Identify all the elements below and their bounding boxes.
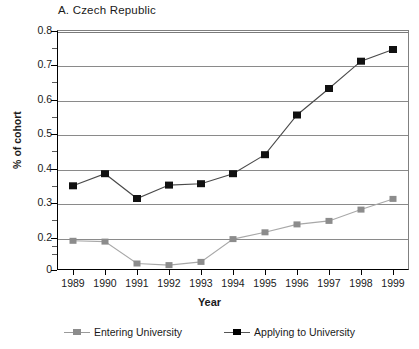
data-point-marker — [390, 196, 397, 202]
data-point-marker — [262, 229, 269, 235]
series-line — [73, 199, 393, 265]
x-tick-mark — [361, 270, 362, 275]
x-tick-mark — [73, 270, 74, 275]
series-entering-university — [70, 196, 397, 268]
data-point-marker — [101, 170, 109, 177]
legend-item-entering: Entering University — [64, 326, 182, 338]
legend: Entering University Applying to Universi… — [0, 326, 419, 338]
data-point-marker — [229, 170, 237, 177]
legend-swatch-applying-icon — [224, 327, 250, 337]
x-tick-mark — [329, 270, 330, 275]
x-tick-mark — [137, 270, 138, 275]
data-point-marker — [70, 238, 77, 244]
data-point-marker — [294, 221, 301, 227]
data-point-marker — [261, 151, 269, 158]
data-point-marker — [134, 261, 141, 267]
data-point-marker — [102, 239, 109, 245]
data-point-marker — [230, 236, 237, 242]
data-point-marker — [325, 85, 333, 92]
legend-swatch-entering-icon — [64, 327, 90, 337]
data-point-marker — [197, 180, 205, 187]
legend-label-applying: Applying to University — [254, 326, 355, 338]
legend-item-applying: Applying to University — [224, 326, 355, 338]
chart-figure: A. Czech Republic % of cohort 00.20.30.4… — [0, 0, 419, 349]
x-tick-mark — [169, 270, 170, 275]
data-point-marker — [293, 112, 301, 119]
x-tick-mark — [201, 270, 202, 275]
data-point-marker — [357, 58, 365, 65]
series-applying-to-university — [69, 46, 397, 202]
x-tick-mark — [393, 270, 394, 275]
data-point-marker — [133, 195, 141, 202]
x-tick-mark — [297, 270, 298, 275]
data-point-marker — [326, 218, 333, 224]
x-tick-mark — [105, 270, 106, 275]
data-point-marker — [69, 182, 77, 189]
data-point-marker — [198, 259, 205, 265]
data-point-marker — [165, 182, 173, 189]
data-point-marker — [358, 207, 365, 213]
x-tick-mark — [233, 270, 234, 275]
legend-label-entering: Entering University — [94, 326, 182, 338]
x-axis-label: Year — [0, 296, 419, 308]
x-tick-mark — [265, 270, 266, 275]
x-tick-label: 1999 — [371, 277, 415, 289]
data-point-marker — [166, 262, 173, 268]
data-point-marker — [389, 46, 397, 53]
